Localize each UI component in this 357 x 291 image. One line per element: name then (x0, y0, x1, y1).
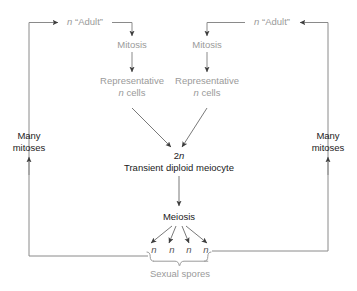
meiocyte-ploidy-n: n (179, 150, 184, 161)
arrow-left-adult-to-mitosis (112, 23, 132, 37)
node-meiosis: Meiosis (163, 211, 195, 222)
spore-symbol-3: n (186, 244, 191, 255)
node-representative-cells-right: Representative n cells (164, 75, 250, 98)
node-adult-left: n “Adult” (67, 16, 103, 27)
node-sexual-spores-label: Sexual spores (150, 268, 210, 279)
arrow-right-adult-to-mitosis (207, 23, 245, 37)
representative-left-cells-word: cells (124, 87, 146, 98)
node-meiocyte-label: Transient diploid meiocyte (124, 162, 234, 173)
adult-left-label: “Adult” (72, 16, 103, 27)
many-mitoses-left-line1: Many (1, 130, 57, 142)
arrow-left-cells-to-meiocyte (132, 108, 171, 147)
node-representative-cells-left: Representative n cells (89, 75, 175, 98)
many-mitoses-right-line1: Many (300, 130, 356, 142)
representative-right-line1: Representative (164, 75, 250, 87)
representative-left-line2: n cells (89, 87, 175, 99)
node-many-mitoses-left: Many mitoses (1, 130, 57, 153)
spore-symbol-1: n (151, 244, 156, 255)
arrow-meiosis-to-spore-1 (151, 226, 172, 243)
node-mitosis-left: Mitosis (117, 39, 147, 50)
arrow-meiosis-to-spore-3 (182, 226, 189, 243)
many-mitoses-right-line2: mitoses (300, 142, 356, 154)
representative-right-cells-word: cells (199, 87, 221, 98)
life-cycle-diagram: n “Adult” n “Adult” Mitosis Mitosis Repr… (0, 0, 357, 291)
node-mitosis-right: Mitosis (192, 39, 222, 50)
spore-symbol-4: n (203, 244, 208, 255)
arrow-meiosis-to-spore-4 (186, 226, 207, 243)
node-many-mitoses-right: Many mitoses (300, 130, 356, 153)
representative-right-line2: n cells (164, 87, 250, 99)
adult-right-label: “Adult” (259, 16, 290, 27)
arrow-meiosis-to-spore-2 (169, 226, 176, 243)
spore-symbol-2: n (169, 244, 174, 255)
arrow-right-cells-to-meiocyte (182, 108, 207, 147)
representative-left-line1: Representative (89, 75, 175, 87)
node-meiocyte-ploidy: 2n (174, 150, 185, 161)
many-mitoses-left-line2: mitoses (1, 142, 57, 154)
node-adult-right: n “Adult” (254, 16, 290, 27)
